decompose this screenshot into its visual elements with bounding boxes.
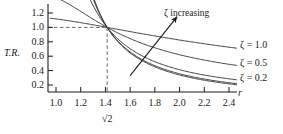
x-axis-label: r bbox=[238, 88, 242, 98]
curve-zeta-1.0 bbox=[50, 18, 244, 49]
y-tick-label: 0.4 bbox=[20, 66, 44, 76]
curve-zeta-0.5 bbox=[50, 0, 244, 66]
series-label-zeta-02: ζ = 0.2 bbox=[240, 73, 267, 83]
series-label-zeta-1: ζ = 1.0 bbox=[240, 40, 267, 50]
transmissibility-chart-figure: T.R. r 0.20.40.60.81.01.2 1.01.21.41.61.… bbox=[0, 0, 283, 134]
x-tick-label: 2.0 bbox=[168, 98, 192, 108]
x-tick-label: 2.4 bbox=[217, 98, 241, 108]
y-axis-label: T.R. bbox=[4, 48, 20, 58]
x-tick-label: 1.4 bbox=[93, 98, 117, 108]
y-axis-ticks bbox=[48, 13, 53, 85]
x-tick-label: 1.2 bbox=[69, 98, 93, 108]
curve-group bbox=[50, 0, 244, 86]
x-axis-ticks bbox=[56, 87, 229, 92]
y-tick-label: 0.6 bbox=[20, 51, 44, 61]
x-tick-label: 1.0 bbox=[44, 98, 68, 108]
x-tick-label: 2.2 bbox=[192, 98, 216, 108]
zeta-increasing-label: ζ increasing bbox=[164, 9, 209, 19]
x-tick-label: 1.6 bbox=[118, 98, 142, 108]
sqrt-two-label: √2 bbox=[94, 114, 120, 124]
crossover-guide-lines bbox=[48, 27, 107, 92]
series-label-zeta-05: ζ = 0.5 bbox=[240, 58, 267, 68]
y-tick-label: 0.8 bbox=[20, 37, 44, 47]
y-tick-label: 1.2 bbox=[20, 8, 44, 18]
y-tick-label: 1.0 bbox=[20, 22, 44, 32]
x-tick-label: 1.8 bbox=[143, 98, 167, 108]
y-tick-label: 0.2 bbox=[20, 80, 44, 90]
